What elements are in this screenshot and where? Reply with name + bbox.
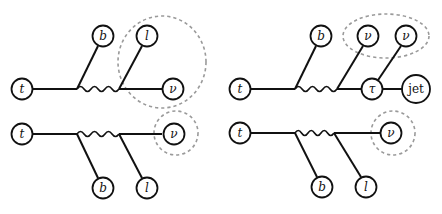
label-tau: τ [369, 82, 376, 96]
b-line [77, 46, 98, 89]
label-l: l [145, 29, 149, 43]
label-b: b [318, 180, 326, 194]
diagram-top-left: t b l ν [12, 16, 207, 108]
label-nu: ν [170, 127, 177, 141]
l-line [334, 133, 361, 177]
nu-line [337, 46, 363, 89]
b-line [295, 46, 316, 89]
l-line [119, 46, 142, 89]
w-boson-line [77, 87, 119, 92]
w-boson-line [295, 131, 334, 136]
l-line [119, 134, 142, 178]
label-jet: jet [406, 82, 424, 96]
grouping-circle [118, 16, 206, 108]
w-boson-line [77, 132, 119, 137]
label-t: t [20, 82, 25, 96]
label-l: l [364, 180, 368, 194]
label-nu: ν [387, 126, 394, 140]
diagram-bottom-right: t b l ν [230, 111, 416, 198]
label-b: b [317, 29, 325, 43]
feynman-diagrams: t b l ν t b l ν t b ν [0, 0, 442, 214]
label-nu: ν [169, 82, 176, 96]
label-nu-2: ν [402, 29, 409, 43]
b-line [295, 133, 317, 177]
label-t: t [20, 127, 25, 141]
diagram-top-right: t b ν ν τ jet [230, 14, 431, 103]
label-l: l [145, 181, 149, 195]
label-nu-1: ν [364, 29, 371, 43]
b-line [77, 134, 98, 178]
w-boson-line [295, 87, 337, 92]
label-b: b [99, 181, 107, 195]
label-t: t [238, 82, 243, 96]
label-t: t [238, 126, 243, 140]
label-b: b [99, 29, 107, 43]
diagram-bottom-left: t b l ν [12, 111, 199, 199]
